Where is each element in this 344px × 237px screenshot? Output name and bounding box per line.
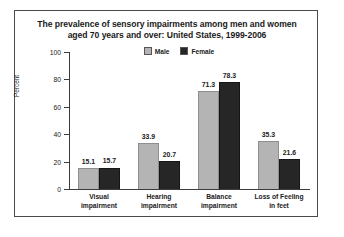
- chart-card: The prevalence of sensory impairments am…: [14, 10, 318, 217]
- bar-female-2: [219, 82, 240, 189]
- bar-female-0: [99, 168, 120, 190]
- bar-value-female-0: 15.7: [103, 157, 116, 164]
- chart-title-line-1: The prevalence of sensory impairments am…: [23, 19, 311, 30]
- bar-value-male-2: 71.3: [202, 81, 215, 88]
- x-axis-label-line: impairment: [81, 202, 117, 211]
- x-axis-label-1: Hearingimpairment: [141, 193, 177, 210]
- bar-female-3: [279, 159, 300, 189]
- plot-area: 15.115.733.920.771.378.335.321.6: [69, 52, 309, 189]
- x-axis-label-3: Loss of Feelingin feet: [254, 193, 303, 210]
- bar-value-female-1: 20.7: [163, 151, 176, 158]
- chart-title: The prevalence of sensory impairments am…: [23, 19, 311, 41]
- bar-value-male-1: 33.9: [142, 133, 155, 140]
- bar-female-1: [159, 161, 180, 189]
- x-axis-label-line: in feet: [254, 202, 303, 211]
- y-axis-label-20: 20: [35, 158, 61, 165]
- bar-value-male-3: 35.3: [262, 131, 275, 138]
- x-axis-label-line: Visual: [81, 193, 117, 202]
- x-axis-label-0: Visualimpairment: [81, 193, 117, 210]
- bar-male-3: [258, 141, 279, 189]
- x-axis-label-line: Loss of Feeling: [254, 193, 303, 202]
- chart-title-line-2: aged 70 years and over: United States, 1…: [23, 30, 311, 41]
- bar-male-1: [138, 143, 159, 189]
- y-axis-tick-0: [64, 189, 69, 190]
- x-axis-label-line: Balance: [201, 193, 237, 202]
- x-axis-label-2: Balanceimpairment: [201, 193, 237, 210]
- bar-value-female-2: 78.3: [223, 72, 236, 79]
- y-axis-label-100: 100: [35, 49, 61, 56]
- x-axis-line: [69, 189, 310, 190]
- bar-male-2: [198, 91, 219, 189]
- y-axis-label-80: 80: [35, 76, 61, 83]
- x-axis-label-line: impairment: [141, 202, 177, 211]
- y-axis-title: Percent: [13, 75, 20, 97]
- y-axis-label-40: 40: [35, 131, 61, 138]
- y-axis-label-0: 0: [35, 186, 61, 193]
- bar-male-0: [78, 168, 99, 189]
- bar-value-male-0: 15.1: [82, 158, 95, 165]
- x-axis-label-line: Hearing: [141, 193, 177, 202]
- x-axis-label-line: impairment: [201, 202, 237, 211]
- bar-value-female-3: 21.6: [283, 149, 296, 156]
- y-axis-label-60: 60: [35, 103, 61, 110]
